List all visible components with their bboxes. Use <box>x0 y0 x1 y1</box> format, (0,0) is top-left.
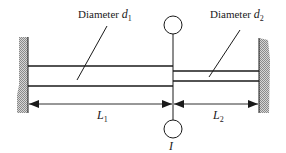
disk-bottom-circle <box>164 120 182 138</box>
disk-top-circle <box>164 16 182 34</box>
shaft-segment-1 <box>28 66 173 86</box>
left-wall <box>17 37 28 113</box>
inertia-disk <box>164 16 182 138</box>
label-length-1: L1 <box>96 108 108 124</box>
label-length-2: L2 <box>212 108 224 124</box>
right-wall <box>259 38 270 113</box>
shaft-diagram: Diameter d1 Diameter d2 L1 L2 I <box>0 0 286 153</box>
label-diameter-2: Diameter d2 <box>210 7 264 23</box>
shaft-segment-2 <box>173 71 259 81</box>
label-diameter-1: Diameter d1 <box>78 7 132 23</box>
label-inertia: I <box>168 139 174 153</box>
leader-line-d1 <box>77 26 107 80</box>
leader-line-d2 <box>209 30 240 77</box>
